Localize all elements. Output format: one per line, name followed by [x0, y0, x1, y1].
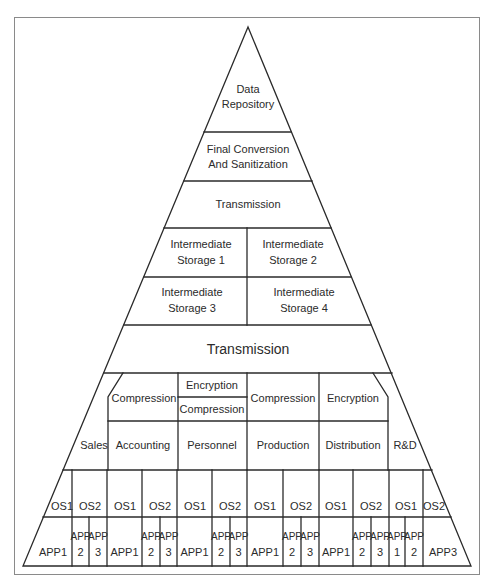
- label-final-conversion-1: Final Conversion: [207, 143, 290, 155]
- label-app: 2: [411, 546, 417, 558]
- label-app: APP1: [180, 546, 208, 558]
- pyramid-diagram: Data Repository Final Conversion And San…: [0, 0, 490, 585]
- label-app: APP1: [322, 546, 350, 558]
- label-storage-2-a: Intermediate: [262, 238, 323, 250]
- label-os: OS1: [254, 500, 276, 512]
- label-os: OS2: [290, 500, 312, 512]
- label-dept-personnel: Personnel: [187, 439, 237, 451]
- label-app: APP: [88, 531, 108, 542]
- label-app: APP3: [429, 546, 457, 558]
- label-processing-distribution: Encryption: [327, 392, 379, 404]
- label-processing-accounting: Compression: [112, 392, 177, 404]
- label-processing-personnel-encryption: Encryption: [186, 379, 238, 391]
- label-app: 3: [377, 546, 383, 558]
- label-transmission-lower: Transmission: [207, 341, 290, 357]
- label-dept-production: Production: [257, 439, 310, 451]
- label-app: APP: [300, 531, 320, 542]
- label-os: OS1: [51, 500, 73, 512]
- label-os: OS2: [219, 500, 241, 512]
- label-os: OS1: [184, 500, 206, 512]
- label-app: 2: [289, 546, 295, 558]
- label-app: APP: [158, 531, 178, 542]
- label-app: 2: [218, 546, 224, 558]
- label-final-conversion-2: And Sanitization: [208, 158, 288, 170]
- label-dept-accounting: Accounting: [116, 439, 170, 451]
- label-app: 3: [235, 546, 241, 558]
- label-dept-sales: Sales: [80, 439, 108, 451]
- label-app: 3: [307, 546, 313, 558]
- label-storage-1-b: Storage 1: [177, 254, 225, 266]
- label-storage-4-a: Intermediate: [273, 286, 334, 298]
- label-dept-distribution: Distribution: [325, 439, 380, 451]
- label-os: OS1: [395, 500, 417, 512]
- label-app: APP: [404, 531, 424, 542]
- label-storage-3-a: Intermediate: [161, 286, 222, 298]
- label-app: 3: [165, 546, 171, 558]
- label-storage-2-b: Storage 2: [269, 254, 317, 266]
- label-processing-production: Compression: [251, 392, 316, 404]
- label-data-repository-2: Repository: [222, 98, 275, 110]
- label-app: APP1: [110, 546, 138, 558]
- label-storage-4-b: Storage 4: [280, 302, 328, 314]
- label-app: APP1: [39, 546, 67, 558]
- label-transmission-upper: Transmission: [216, 198, 281, 210]
- label-processing-personnel-compression: Compression: [180, 403, 245, 415]
- label-data-repository-1: Data: [236, 83, 260, 95]
- label-os: OS1: [325, 500, 347, 512]
- label-app: 2: [77, 546, 83, 558]
- label-app: 3: [95, 546, 101, 558]
- label-dept-rnd: R&D: [393, 439, 416, 451]
- label-os: OS1: [114, 500, 136, 512]
- label-os: OS2: [360, 500, 382, 512]
- label-storage-3-b: Storage 3: [168, 302, 216, 314]
- label-app: 2: [148, 546, 154, 558]
- label-os: OS2: [423, 500, 445, 512]
- label-app: APP: [228, 531, 248, 542]
- label-os: OS2: [149, 500, 171, 512]
- label-storage-1-a: Intermediate: [170, 238, 231, 250]
- label-app: 1: [394, 546, 400, 558]
- label-app: 2: [359, 546, 365, 558]
- label-app: APP1: [251, 546, 279, 558]
- label-os: OS2: [79, 500, 101, 512]
